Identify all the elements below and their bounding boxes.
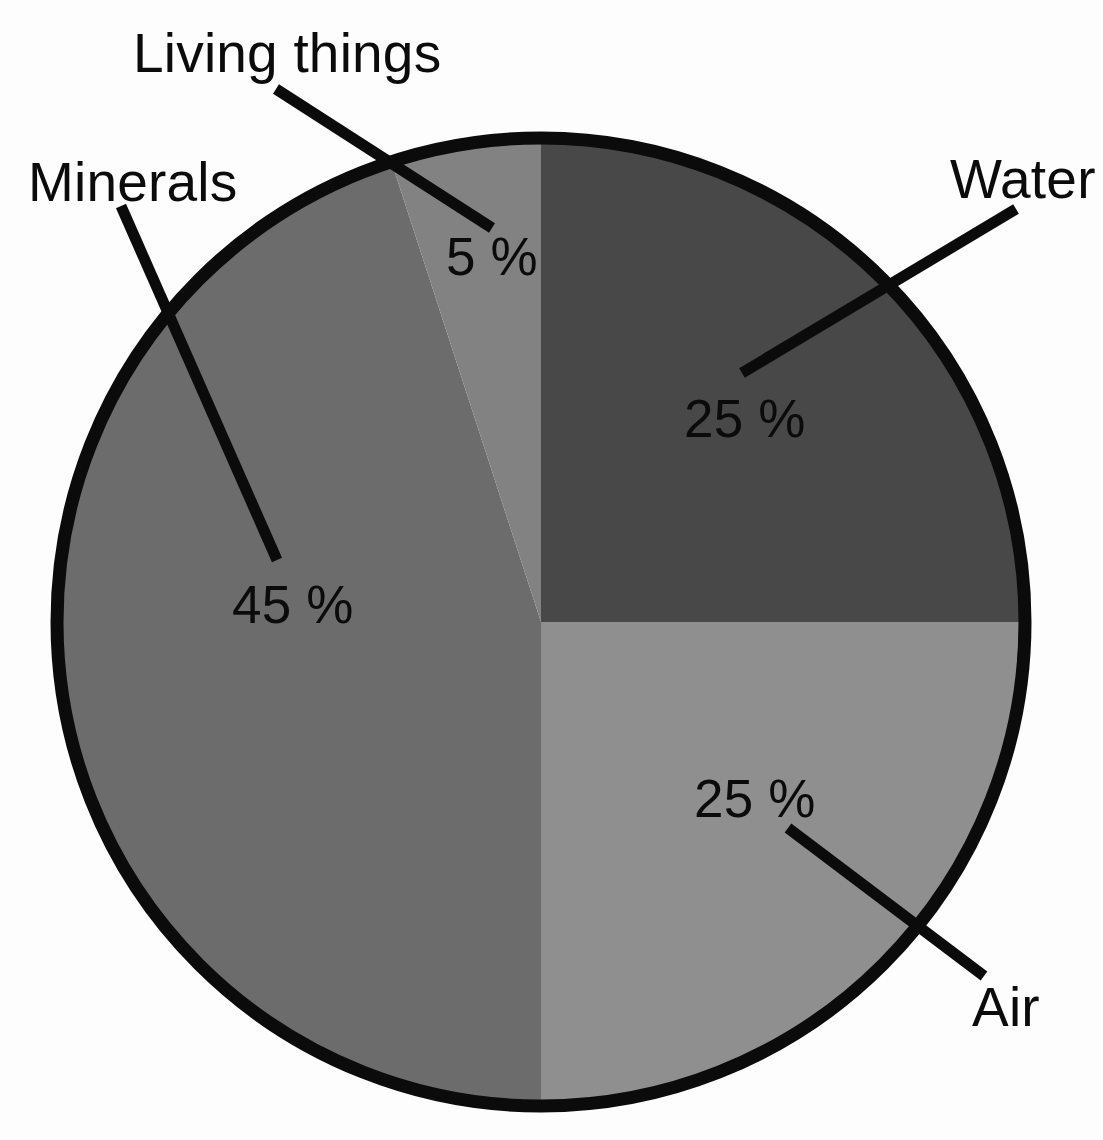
slice-label-air: Air (972, 980, 1040, 1035)
pie-slice-air[interactable] (541, 622, 1025, 1106)
slice-value-water: 25 % (684, 392, 806, 445)
slice-value-air: 25 % (694, 772, 816, 825)
slice-label-living-things: Living things (133, 26, 441, 81)
pie-slice-water[interactable] (541, 138, 1025, 622)
pie-chart-figure: Living things Minerals Water Air 5 % 25 … (0, 0, 1103, 1140)
slice-value-minerals: 45 % (232, 578, 354, 631)
slice-label-water: Water (950, 152, 1096, 207)
slice-label-minerals: Minerals (28, 155, 237, 210)
slice-value-living-things: 5 % (446, 230, 538, 283)
